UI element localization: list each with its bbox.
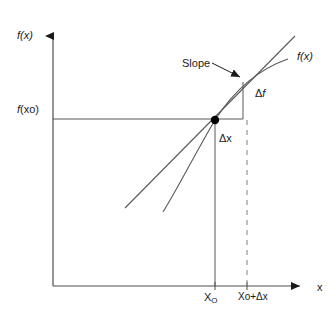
delta-f-label-f: f	[262, 87, 265, 99]
slope-callout-label: Slope	[182, 58, 210, 69]
y-axis-label: f(x)	[17, 30, 33, 41]
x-tick-label-x0: XO	[204, 292, 218, 303]
y-tick-label-fx0: f(xo)	[17, 104, 39, 115]
x-tick-label-x0-subscript: O	[211, 296, 217, 305]
x-axis-label: x	[317, 282, 323, 293]
tangency-point-marker	[211, 116, 219, 124]
delta-x-label: Δx	[219, 133, 232, 144]
delta-f-label: Δf	[255, 88, 265, 99]
diagram-canvas	[0, 0, 336, 319]
derivative-diagram: f(x) f(xo) x XO Xo+Δx Slope Δf Δx f(x)	[0, 0, 336, 319]
slope-callout-leader	[212, 63, 240, 77]
x-tick-label-x0-plus-dx: Xo+Δx	[238, 292, 268, 302]
y-tick-label-fx0-arg: (xo)	[20, 103, 39, 115]
curve-label: f(x)	[297, 51, 313, 62]
